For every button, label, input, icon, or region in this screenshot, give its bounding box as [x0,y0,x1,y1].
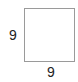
square-shape [24,8,75,62]
left-side-length-label: 9 [9,28,17,42]
bottom-side-length-label: 9 [47,65,55,79]
